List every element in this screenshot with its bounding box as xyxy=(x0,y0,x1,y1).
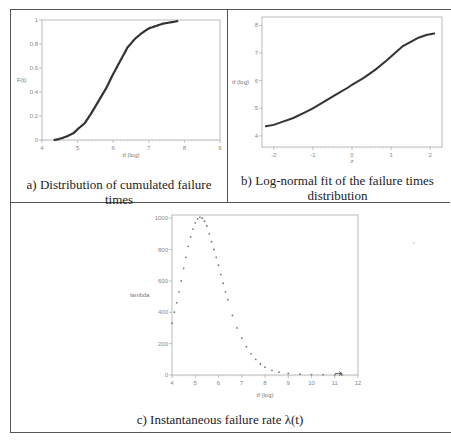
y-tick-label: 600 xyxy=(158,278,169,284)
data-point xyxy=(213,249,215,251)
data-point xyxy=(222,282,224,284)
x-tick-label: 10 xyxy=(308,380,315,386)
data-point xyxy=(232,314,234,316)
y-tick-label: 800 xyxy=(158,247,169,253)
data-point xyxy=(197,218,199,220)
data-point xyxy=(255,358,257,360)
x-axis-label: tf (log) xyxy=(256,392,273,398)
data-point xyxy=(250,353,252,355)
data-point xyxy=(259,363,261,365)
data-point xyxy=(225,291,227,293)
data-point xyxy=(183,267,185,269)
data-point xyxy=(227,299,229,301)
data-point xyxy=(190,236,192,238)
x-tick-label: 8 xyxy=(263,380,267,386)
data-point xyxy=(206,225,208,227)
data-point xyxy=(299,373,301,375)
data-point xyxy=(192,228,194,230)
data-point xyxy=(194,222,196,224)
data-point xyxy=(187,245,189,247)
data-point xyxy=(208,233,210,235)
y-tick-label: 0 xyxy=(165,372,169,378)
data-point xyxy=(185,256,187,258)
x-tick-label: 6 xyxy=(217,380,221,386)
y-tick-label: 400 xyxy=(158,309,169,315)
y-axis-label: lambda xyxy=(130,292,150,298)
x-tick-label: 7 xyxy=(240,380,244,386)
x-tick-label: 4 xyxy=(170,380,174,386)
data-point xyxy=(173,311,175,313)
y-tick-label: 200 xyxy=(158,341,169,347)
data-point xyxy=(180,280,182,282)
x-tick-label: 5 xyxy=(194,380,198,386)
data-point xyxy=(211,241,213,243)
data-point xyxy=(236,327,238,329)
data-point xyxy=(220,274,222,276)
data-point xyxy=(204,220,206,222)
x-tick-label: 11 xyxy=(332,380,339,386)
caption-c: c) Instantaneous failure rate λ(t) xyxy=(120,412,320,427)
plot-area xyxy=(172,215,358,375)
data-point xyxy=(176,302,178,304)
y-tick-label: 1000 xyxy=(155,215,169,221)
data-point xyxy=(287,373,289,375)
data-point xyxy=(171,322,173,324)
data-point xyxy=(334,374,336,376)
data-point xyxy=(271,369,273,371)
data-point xyxy=(178,291,180,293)
data-point xyxy=(218,264,220,266)
data-point xyxy=(201,217,203,219)
data-point xyxy=(311,374,313,376)
data-point xyxy=(241,337,243,339)
stray-mark xyxy=(413,242,415,244)
data-point xyxy=(278,371,280,373)
data-point xyxy=(322,374,324,376)
data-point xyxy=(199,216,201,218)
x-tick-label: 12 xyxy=(355,380,362,386)
data-point xyxy=(264,366,266,368)
data-point xyxy=(246,346,248,348)
x-tick-label: 9 xyxy=(287,380,291,386)
data-point xyxy=(215,256,217,258)
